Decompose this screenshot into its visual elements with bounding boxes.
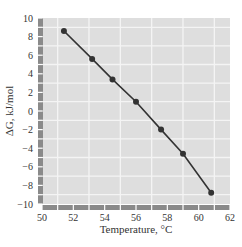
y-tick-label: 10	[23, 13, 33, 24]
axis-bar-segment	[137, 205, 151, 210]
axis-bar-segment	[152, 205, 166, 210]
axis-bar-segment	[38, 93, 43, 101]
data-point	[133, 99, 139, 105]
axis-bar-segment	[121, 205, 135, 210]
y-tick-label: 6	[28, 50, 33, 61]
axis-bar-segment	[38, 158, 43, 166]
axis-bar-segment	[38, 149, 43, 157]
x-tick-label: 54	[100, 212, 110, 223]
x-axis-bar	[43, 205, 230, 210]
axis-bar-segment	[199, 205, 213, 210]
x-tick-labels: 50525456586062	[37, 212, 235, 223]
axis-bar-segment	[38, 130, 43, 138]
axis-bar-segment	[38, 28, 43, 36]
x-tick-label: 50	[37, 212, 47, 223]
data-point	[110, 76, 116, 82]
axis-bar-segment	[38, 19, 43, 27]
axis-bar-segment	[215, 205, 229, 210]
y-tick-label: −8	[22, 180, 33, 191]
axis-bar-segment	[74, 205, 88, 210]
axis-bar-segment	[168, 205, 182, 210]
y-tick-label: 2	[28, 87, 33, 98]
axis-bar-segment	[105, 205, 119, 210]
axis-bar-segment	[38, 121, 43, 129]
y-tick-label: −6	[22, 161, 33, 172]
axis-bar-segment	[58, 205, 72, 210]
x-tick-label: 62	[225, 212, 235, 223]
y-axis-label: ΔG, kJ/mol	[3, 86, 15, 136]
chart: 1086420−2−4−6−8−10 50525456586062 Temper…	[0, 0, 242, 247]
axis-bar-segment	[38, 177, 43, 185]
x-tick-label: 56	[131, 212, 141, 223]
y-tick-label: −2	[22, 124, 33, 135]
axis-bar-segment	[43, 205, 57, 210]
axis-bar-segment	[38, 47, 43, 55]
axis-bar-segment	[38, 195, 43, 203]
y-tick-label: −10	[17, 199, 33, 210]
y-tick-label: 8	[28, 31, 33, 42]
axis-bar-segment	[38, 167, 43, 175]
axis-bar-segment	[38, 102, 43, 110]
x-tick-label: 58	[162, 212, 172, 223]
x-axis-label: Temperature, °C	[100, 223, 173, 235]
data-point	[61, 28, 67, 34]
axis-bar-segment	[38, 84, 43, 92]
axis-bar-segment	[38, 112, 43, 120]
x-tick-label: 60	[194, 212, 204, 223]
data-point	[180, 151, 186, 157]
y-tick-labels: 1086420−2−4−6−8−10	[17, 13, 33, 210]
axis-bar-segment	[90, 205, 104, 210]
axis-bar-segment	[38, 37, 43, 45]
y-tick-label: 0	[28, 106, 33, 117]
y-tick-label: 4	[28, 68, 33, 79]
data-point	[158, 127, 164, 133]
data-point	[89, 56, 95, 62]
y-tick-label: −4	[22, 143, 33, 154]
axis-bar-segment	[38, 140, 43, 148]
axis-bar-segment	[184, 205, 198, 210]
axis-bar-segment	[38, 74, 43, 82]
x-tick-label: 52	[68, 212, 78, 223]
data-point	[208, 190, 214, 196]
axis-bar-segment	[38, 56, 43, 64]
axis-bar-segment	[38, 65, 43, 73]
axis-bar-segment	[38, 186, 43, 194]
